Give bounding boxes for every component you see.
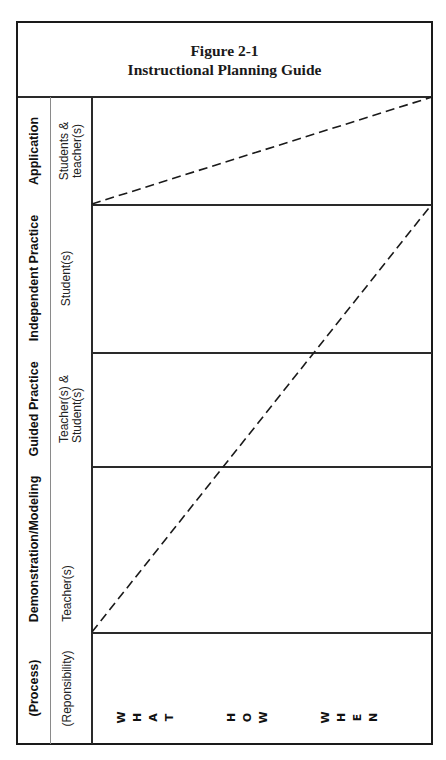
letter: W xyxy=(319,709,332,725)
column-label-when: W H E N xyxy=(317,706,381,728)
responsibility-line: Teacher(s) xyxy=(61,565,74,622)
dashed-line-lower xyxy=(92,204,432,632)
letter: W xyxy=(115,709,128,725)
responsibility-line: Student(s) xyxy=(71,375,84,443)
row-header-responsibility: (Reponsibility) xyxy=(51,632,83,744)
column-label-what: W H A T xyxy=(113,706,177,728)
responsibility-demonstration-modeling: Teacher(s) xyxy=(51,466,83,632)
stage-label-independent-practice: Independent Practice xyxy=(18,204,50,352)
letter: O xyxy=(241,709,254,725)
stage-label-demonstration-modeling: Demonstration/Modeling xyxy=(18,466,50,632)
letter: E xyxy=(351,709,364,725)
responsibility-line: Student(s) xyxy=(61,250,74,305)
letter: A xyxy=(147,709,160,725)
column-label-how: H O W xyxy=(223,706,271,728)
letter: H xyxy=(131,709,144,725)
stage-label-guided-practice: Guided Practice xyxy=(18,352,50,466)
responsibility-line: teacher(s) xyxy=(71,121,84,180)
responsibility-line: Students & xyxy=(58,121,71,180)
row-header-process: (Process) xyxy=(18,632,50,744)
letter: N xyxy=(367,709,380,725)
letter: W xyxy=(257,709,270,725)
responsibility-independent-practice: Student(s) xyxy=(51,204,83,352)
stage-label-application: Application xyxy=(18,97,50,204)
letter: H xyxy=(225,709,238,725)
letter: H xyxy=(335,709,348,725)
letter: T xyxy=(163,709,176,725)
responsibility-application: Students & teacher(s) xyxy=(51,97,91,204)
responsibility-guided-practice: Teacher(s) & Student(s) xyxy=(51,352,91,466)
dashed-line-upper xyxy=(92,97,432,204)
